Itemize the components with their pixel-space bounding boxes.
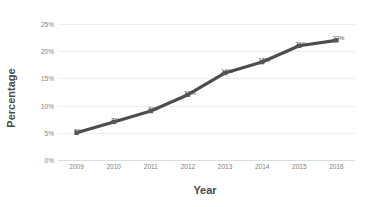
x-tick-label: 2014 <box>255 163 269 170</box>
y-tick-label: 10% <box>24 102 54 109</box>
data-point-label: 22% <box>332 35 344 41</box>
data-point-label: 9% <box>148 106 157 112</box>
y-tick-label: 25% <box>24 21 54 28</box>
y-tick-label: 0% <box>24 157 54 164</box>
data-point-label: 7% <box>111 117 120 123</box>
y-axis-title-text: Percentage <box>5 68 17 127</box>
data-point-label: 12% <box>184 90 196 96</box>
plot-area: 5%7%9%12%16%18%21%22% <box>58 24 355 160</box>
y-axis-tick-labels: 0%5%10%15%20%25% <box>22 0 54 207</box>
x-tick-label: 2011 <box>144 163 158 170</box>
x-tick-label: 2012 <box>181 163 195 170</box>
data-point-label: 18% <box>258 57 270 63</box>
x-tick-label: 2013 <box>218 163 232 170</box>
gridline-0 <box>58 160 355 161</box>
x-tick-label: 2009 <box>69 163 83 170</box>
y-tick-label: 20% <box>24 48 54 55</box>
x-axis-tick-labels: 20092010201120122013201420152016 <box>58 163 355 177</box>
y-axis-title: Percentage <box>2 38 20 158</box>
x-tick-label: 2010 <box>106 163 120 170</box>
x-axis-title-text: Year <box>193 184 216 196</box>
x-tick-label: 2015 <box>292 163 306 170</box>
data-point-label: 5% <box>74 128 83 134</box>
data-point-label: 21% <box>295 41 307 47</box>
x-axis-title: Year <box>0 184 380 196</box>
chart-screenshot: Percentage 0%5%10%15%20%25% 5%7%9%12%16%… <box>0 0 380 207</box>
y-tick-label: 5% <box>24 129 54 136</box>
data-point-label: 16% <box>221 68 233 74</box>
line-series <box>58 24 355 160</box>
y-tick-label: 15% <box>24 75 54 82</box>
x-tick-label: 2016 <box>329 163 343 170</box>
